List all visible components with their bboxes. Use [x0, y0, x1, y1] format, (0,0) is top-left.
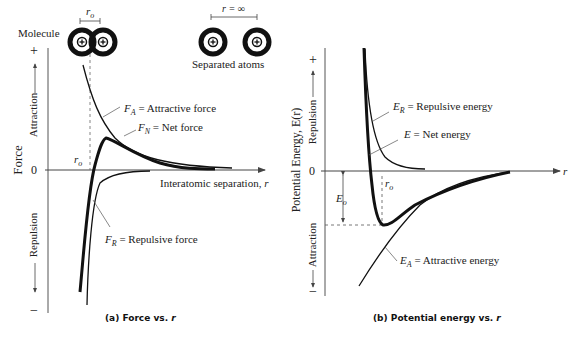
r-infinity-label: r = ∞ — [222, 3, 245, 14]
ro-axis-label: ro — [74, 153, 82, 168]
separated-atoms-label: Separated atoms — [192, 58, 264, 70]
separated-atoms-icon — [201, 30, 269, 54]
er-leader — [373, 112, 389, 121]
x-axis-label: Interatomic separation, r — [160, 177, 269, 189]
y-plus-label: + — [309, 52, 317, 67]
attraction-label: Attraction — [306, 222, 318, 267]
y-axis-title: Potential Energy, E(r) — [289, 108, 303, 213]
ea-label: EA = Attractive energy — [399, 254, 500, 269]
repulsion-label: Repulsion — [306, 99, 318, 144]
fa-label: FA = Attractive force — [123, 102, 216, 117]
fn-label: FN = Net force — [137, 121, 203, 136]
zero-label: 0 — [309, 164, 315, 178]
attraction-label: Attraction — [27, 92, 39, 137]
svg-text:Attraction: Attraction — [27, 92, 39, 137]
y-minus-label: − — [30, 303, 38, 318]
y-minus-label: − — [309, 284, 317, 299]
y-axis-title: Force — [10, 145, 25, 175]
e-leader — [369, 140, 398, 155]
panel-a-force: Molecule ro r = ∞ Separated atoms + Attr… — [10, 3, 269, 323]
attractive-force-curve — [83, 65, 232, 168]
fa-leader — [103, 107, 120, 117]
fr-leader — [93, 200, 110, 227]
panel-a-caption: (a) Force vs. r — [105, 313, 176, 323]
svg-text:Potential Energy, E(r): Potential Energy, E(r) — [289, 108, 303, 213]
svg-text:Repulsion: Repulsion — [27, 212, 39, 257]
e-label: E = Net energy — [403, 128, 471, 140]
molecule-label: Molecule — [18, 27, 60, 39]
x-axis-label: r — [563, 165, 568, 177]
net-force-curve — [80, 138, 215, 292]
svg-text:Force: Force — [10, 145, 25, 175]
ro-label: ro — [385, 177, 393, 192]
repulsion-label: Repulsion — [27, 212, 39, 257]
panel-b-energy: r + Repulsion Potential Energy, E(r) 0 A… — [289, 48, 568, 323]
svg-text:Attraction: Attraction — [306, 222, 318, 267]
figure-canvas: Molecule ro r = ∞ Separated atoms + Attr… — [0, 0, 575, 338]
ea-leader — [385, 247, 397, 261]
svg-text:Repulsion: Repulsion — [306, 99, 318, 144]
er-label: ER = Repulsive energy — [392, 100, 493, 115]
ro-top-label: ro — [86, 5, 94, 20]
eo-label: Eo — [335, 192, 347, 207]
zero-label: 0 — [31, 163, 37, 177]
y-plus-label: + — [30, 43, 38, 58]
fr-label: FR = Repulsive force — [104, 233, 198, 248]
molecule-atoms-icon — [70, 30, 115, 54]
fn-leader — [124, 130, 136, 136]
panel-b-caption: (b) Potential energy vs. r — [373, 313, 501, 323]
